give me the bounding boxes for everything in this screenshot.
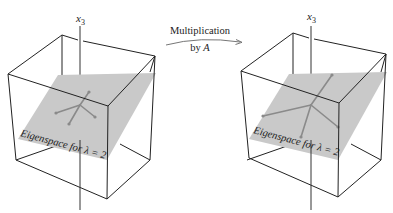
transform-label-line2: by A — [190, 42, 210, 53]
left-cube-panel: x3 Eigenspace for λ = 2 — [8, 12, 156, 210]
left-x3-axis-label: x3 — [75, 12, 85, 27]
transform-label-line1: Multiplication — [170, 25, 231, 36]
left-cube-top-edges — [8, 35, 155, 74]
right-cube-panel: x3 Eigenspace for λ = 2 — [241, 10, 387, 210]
right-x3-axis-label: x3 — [306, 10, 316, 25]
right-cube-top-edges — [241, 33, 386, 72]
eigenspace-diagram: x3 Eigenspace for λ = 2 Multiplication b… — [0, 0, 393, 213]
multiplication-transform: Multiplication by A — [166, 25, 242, 53]
